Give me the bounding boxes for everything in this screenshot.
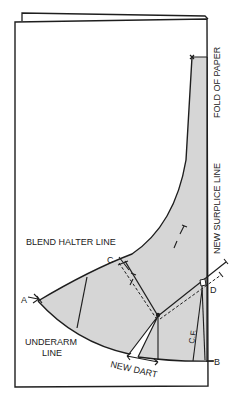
point-c-label: C [107, 255, 114, 265]
underarm-line-label-2: LINE [42, 348, 62, 358]
fold-of-paper-label: FOLD OF PAPER [212, 46, 222, 118]
point-d-label: D [210, 285, 217, 295]
d-marker [200, 279, 206, 286]
arrow-ends [219, 259, 228, 277]
point-a-label: A [21, 295, 27, 305]
dart-apex-dot [156, 313, 160, 317]
new-surplice-line-label: NEW SURPLICE LINE [212, 163, 222, 254]
blend-halter-line-label: BLEND HALTER LINE [26, 237, 116, 247]
underarm-line-label-1: UNDERARM [25, 337, 77, 347]
point-b-label: B [214, 357, 220, 367]
pattern-diagram: FOLD OF PAPER NEW SURPLICE LINE BLEND HA… [0, 0, 238, 401]
